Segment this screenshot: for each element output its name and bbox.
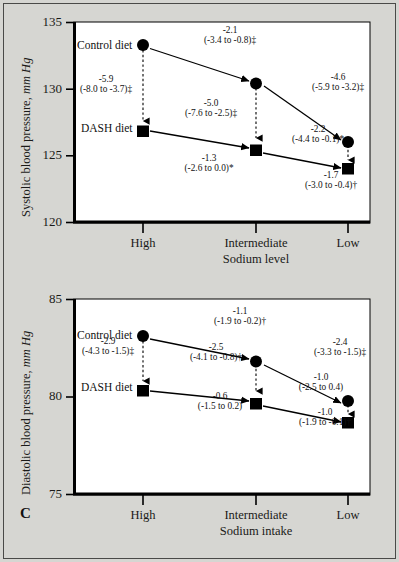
systolic-annotation-dash-high-intermediate: -1.3 (-2.6 to 0.0)* (150, 153, 268, 174)
control-marker-intermediate (250, 78, 262, 90)
diastolic-xtick-label-high: High (103, 508, 183, 523)
systolic-xtick-label-low: Low (308, 236, 388, 251)
panel-letter: C (20, 505, 31, 522)
dash-marker-high (137, 126, 149, 138)
diastolic-xtick-label-low: Low (308, 508, 388, 523)
diastolic-annotation-diet-diff-low: -1.0 (-2.5 to 0.4) (265, 372, 377, 393)
dash-marker-high (137, 385, 149, 397)
systolic-annotation-diet-diff-low: -2.2 (-4.4 to -0.1)* (262, 124, 374, 145)
systolic-ytick-label-120: 120 (26, 214, 62, 230)
diastolic-annotation-dash-high-intermediate: -0.6 (-1.5 to 0.2) (161, 391, 279, 412)
diastolic-y-axis-title: Diastolic blood pressure, mm Hg (19, 331, 34, 495)
control-marker-low (342, 395, 354, 407)
systolic-chart-panel: Systolic blood pressure, mm Hg 135 130 1… (0, 0, 399, 281)
diastolic-annotation-diet-diff-intermediate: -2.5 (-4.1 to -0.8)† (158, 342, 274, 363)
systolic-xtick-label-high: High (103, 236, 183, 251)
figure-panel-c: Systolic blood pressure, mm Hg 135 130 1… (0, 0, 399, 562)
systolic-annotation-diet-diff-intermediate: -5.0 (-7.6 to -2.5)‡ (153, 98, 269, 119)
systolic-x-axis-title: Sodium level (196, 252, 316, 267)
systolic-xtick-label-intermediate: Intermediate (206, 236, 306, 251)
systolic-ytick-label-135: 135 (26, 14, 62, 30)
diastolic-y-axis-title-units: mm Hg (19, 331, 33, 367)
diastolic-ytick-label-85: 85 (26, 291, 62, 307)
diastolic-chart-panel: Diastolic blood pressure, mm Hg 85 80 75… (0, 281, 399, 562)
diastolic-annotation-control-high-intermediate: -1.1 (-1.9 to -0.2)† (180, 306, 300, 327)
diastolic-annotation-control-intermediate-low: -2.4 (-3.3 to -1.5)‡ (285, 337, 395, 358)
systolic-annotation-control-intermediate-low: -4.6 (-5.9 to -3.2)‡ (283, 72, 393, 93)
diastolic-series-label-dash: DASH diet (81, 381, 132, 393)
systolic-ytick-label-125: 125 (26, 147, 62, 163)
diastolic-xtick-label-intermediate: Intermediate (206, 508, 306, 523)
systolic-annotation-dash-intermediate-low: -1.7 (-3.0 to -0.4)† (272, 170, 390, 191)
diastolic-annotation-dash-intermediate-low: -1.0 (-1.9 to -0.1)† (266, 407, 384, 428)
diastolic-annotation-diet-diff-high: -2.9 (-4.3 to -1.5)‡ (48, 336, 168, 357)
diastolic-x-axis-title: Sodium intake (196, 524, 316, 539)
diastolic-ytick-label-80: 80 (26, 388, 62, 404)
control-marker-high (137, 39, 149, 51)
systolic-series-label-dash: DASH diet (81, 122, 132, 134)
systolic-annotation-diet-diff-high: -5.9 (-8.0 to -3.7)‡ (46, 74, 166, 95)
diastolic-y-axis-title-plain: Diastolic blood pressure, (19, 367, 33, 495)
diastolic-ytick-label-75: 75 (26, 486, 62, 502)
systolic-annotation-control-high-intermediate: -2.1 (-3.4 to -0.8)‡ (170, 25, 290, 46)
systolic-series-label-control: Control diet (77, 39, 132, 51)
